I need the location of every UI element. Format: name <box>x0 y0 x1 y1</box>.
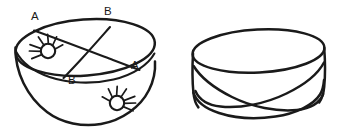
label-b-top-right: B <box>104 5 112 17</box>
bowl-panel: A B A B <box>14 5 157 125</box>
label-b-bottom-left: B <box>68 74 76 86</box>
figure-canvas: A B A B <box>0 0 340 137</box>
spider-legs <box>102 86 135 110</box>
spider-legs <box>29 34 62 58</box>
chord-b-b <box>64 27 111 78</box>
label-a-right: A <box>131 59 139 71</box>
band-panel <box>191 26 325 118</box>
label-a-top-left: A <box>31 10 39 22</box>
band-top-rim-ellipse <box>191 26 325 76</box>
spider-lower-right <box>102 86 135 110</box>
spider-body-circle <box>41 44 55 58</box>
chord-a-a <box>34 31 140 71</box>
spider-upper-left <box>29 34 62 58</box>
spider-body-circle <box>110 96 124 110</box>
